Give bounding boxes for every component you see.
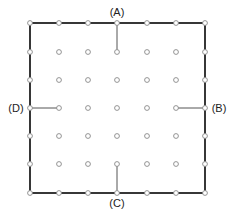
peg-dot [203,134,208,139]
peg-dot [203,106,208,111]
peg-dot [145,78,150,83]
peg-dot [86,21,91,26]
peg-dot [145,106,150,111]
peg-dot [28,21,33,26]
peg-dot [57,191,62,196]
peg-dot [28,134,33,139]
peg-dot [57,106,62,111]
peg-dot [203,78,208,83]
diagram-canvas: (A) (B) (C) (D) [0,0,233,222]
peg-dot [174,106,179,111]
peg-dot [145,21,150,26]
peg-dot [145,50,150,55]
peg-dot [28,78,33,83]
peg-dot [115,78,120,83]
peg-dot [203,21,208,26]
pegboard-diagram [0,0,233,222]
peg-dot [174,21,179,26]
peg-dot [57,50,62,55]
peg-dot [115,162,120,167]
peg-dot [86,106,91,111]
peg-dot [57,78,62,83]
peg-dot [115,106,120,111]
peg-dot [174,162,179,167]
peg-dot [174,191,179,196]
peg-dot [57,134,62,139]
peg-dot [115,191,120,196]
label-c: (C) [109,197,124,209]
label-b: (B) [212,102,227,114]
peg-dot [203,50,208,55]
label-d: (D) [8,102,23,114]
peg-dot [115,134,120,139]
peg-dot [86,191,91,196]
peg-dot [28,50,33,55]
peg-dot [145,191,150,196]
peg-dot [203,162,208,167]
peg-dot [28,162,33,167]
peg-dot [145,134,150,139]
peg-dot [203,191,208,196]
peg-dot [145,162,150,167]
label-a: (A) [110,6,125,18]
peg-dot [57,21,62,26]
peg-dot [174,78,179,83]
peg-dot [174,50,179,55]
peg-dot [174,134,179,139]
peg-dot [115,50,120,55]
peg-dot [28,106,33,111]
peg-dot [86,162,91,167]
peg-dot [115,21,120,26]
peg-dot [86,78,91,83]
peg-dot [57,162,62,167]
peg-dot [28,191,33,196]
peg-dot [86,134,91,139]
peg-dot [86,50,91,55]
